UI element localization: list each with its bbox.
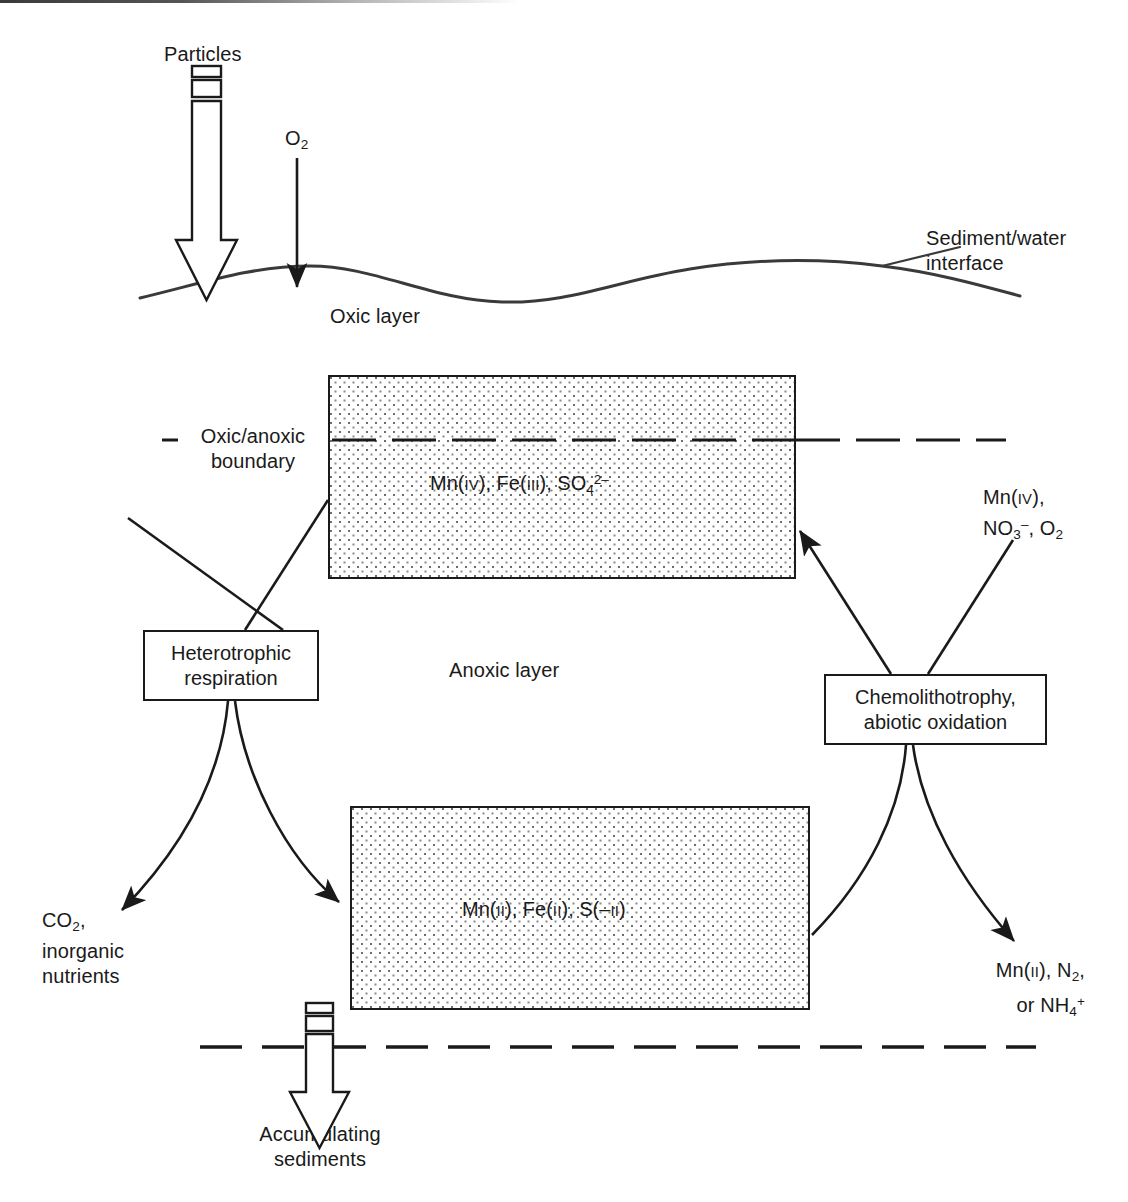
heterotrophic-respiration-box[interactable]: Heterotrophic respiration: [143, 630, 319, 701]
accumulating-sediments-line1: Accumulating: [259, 1123, 380, 1145]
sediment-water-interface-line1: Sediment/water: [926, 227, 1066, 249]
anoxic-layer-label: Anoxic layer: [449, 658, 559, 683]
oxic-anoxic-boundary-label: Oxic/anoxicboundary: [178, 424, 328, 474]
diagram-canvas: Mn(IV), Fe(III), SO42– Mn(II), Fe(II), S…: [0, 0, 1128, 1202]
particles-label: Particles: [164, 42, 242, 67]
oxidized-pool-label: Mn(IV), Fe(III), SO42–: [430, 468, 609, 502]
chemolithotrophy-products-arrow: [913, 745, 1014, 941]
oxidant-input-label: Mn(IV),NO3–, O2: [983, 485, 1063, 547]
reduced-pool-label: Mn(II), Fe(II), S(–II): [462, 897, 626, 923]
oxidized-pool-to-respiration-line: [245, 500, 328, 630]
oxidant-input-line: [928, 540, 1013, 674]
oxic-anoxic-boundary-line2: boundary: [211, 450, 295, 472]
scan-edge-artifact: [0, 0, 520, 3]
co2-products-line2: inorganic: [42, 940, 124, 962]
chemolithotrophy-to-oxidized-pool-arrow: [800, 531, 891, 674]
particles-block-arrow: [176, 66, 237, 300]
sediment-water-interface-label: Sediment/waterinterface: [926, 226, 1066, 276]
oxidized-products-label: Mn(II), N2,or NH4+: [860, 958, 1085, 1023]
accumulating-sediments-line2: sediments: [274, 1148, 366, 1170]
reduced-pool-to-chemolithotrophy-line: [812, 745, 906, 935]
co2-products-label: CO2,inorganicnutrients: [42, 908, 124, 989]
heterotrophic-respiration-line1: Heterotrophic: [171, 642, 291, 664]
oxic-anoxic-boundary-line1: Oxic/anoxic: [201, 425, 305, 447]
sediment-water-interface-line2: interface: [926, 252, 1004, 274]
chemolithotrophy-line1: Chemolithotrophy,: [855, 686, 1016, 708]
oxic-layer-label: Oxic layer: [330, 304, 420, 329]
chemolithotrophy-line2: abiotic oxidation: [864, 711, 1007, 733]
o2-input-label: O2: [285, 126, 308, 157]
heterotrophic-respiration-line2: respiration: [184, 667, 277, 689]
sediment-water-interface-curve: [140, 260, 1020, 302]
oxidant-supply-line: [128, 518, 283, 630]
co2-output-arrow: [122, 701, 228, 910]
co2-products-line3: nutrients: [42, 965, 120, 987]
accumulating-sediments-label: Accumulatingsediments: [230, 1122, 410, 1172]
respiration-to-reduced-pool-arrow: [235, 701, 339, 902]
chemolithotrophy-box[interactable]: Chemolithotrophy, abiotic oxidation: [824, 674, 1047, 745]
